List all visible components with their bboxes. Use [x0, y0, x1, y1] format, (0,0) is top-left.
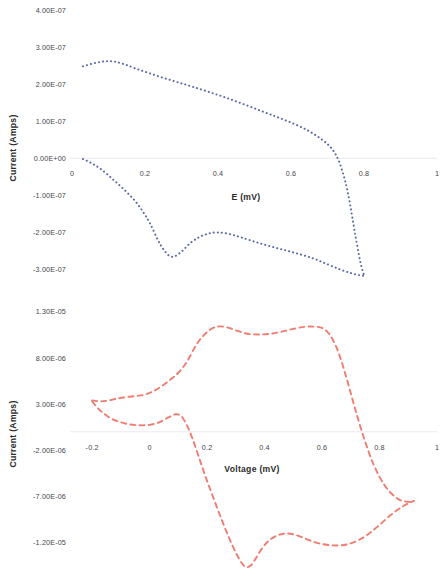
data-series-reverse-sweep: [83, 159, 364, 276]
x-axis-tick-label: 1: [435, 443, 439, 452]
y-axis-tick-label: -3.00E-07: [33, 265, 66, 274]
y-axis-title: Current (Amps): [8, 114, 18, 181]
data-series-forward-sweep: [83, 61, 364, 275]
y-axis-tick-label: -1.20E-05: [33, 538, 66, 547]
y-axis-tick-label: 2.00E-07: [36, 80, 66, 89]
cyclic-voltammogram-red: 1.30E-058.00E-063.00E-06-2.00E-06-7.00E-…: [0, 292, 443, 584]
y-axis-tick-label: 3.00E-07: [36, 43, 66, 52]
y-axis-tick-label: -2.00E-07: [33, 228, 66, 237]
x-axis-tick-label: 0: [148, 443, 152, 452]
x-axis-tick-label: 0.4: [213, 169, 223, 178]
x-axis-tick-label: 1: [435, 169, 439, 178]
y-axis-title: Current (Amps): [8, 400, 18, 467]
x-axis-tick-label: 0.6: [286, 169, 296, 178]
x-axis-title: E (mV): [231, 192, 260, 202]
y-axis-tick-label: 3.00E-06: [36, 400, 66, 409]
y-axis-tick-label: -7.00E-06: [33, 492, 66, 501]
y-axis-tick-label: -2.00E-06: [33, 446, 66, 455]
y-axis-tick-label: 4.00E-07: [36, 6, 66, 15]
x-axis-tick-label: 0.2: [202, 443, 212, 452]
y-axis-tick-label: -1.00E-07: [33, 191, 66, 200]
data-series-reverse-sweep: [92, 401, 414, 567]
y-axis-tick-label: 0.00E+00: [34, 154, 66, 163]
y-axis-tick-label: 1.30E-05: [36, 307, 66, 316]
x-axis-tick-label: 0.8: [359, 169, 369, 178]
x-axis-tick-label: 0.4: [259, 443, 269, 452]
x-axis-tick-label: -0.2: [86, 443, 99, 452]
x-axis-tick-label: 0.6: [317, 443, 327, 452]
y-axis-tick-label: 1.00E-07: [36, 117, 66, 126]
cyclic-voltammogram-blue: 4.00E-073.00E-072.00E-071.00E-070.00E+00…: [0, 0, 443, 292]
chart-panel-top: 4.00E-073.00E-072.00E-071.00E-070.00E+00…: [0, 0, 443, 292]
x-axis-tick-label: 0.8: [374, 443, 384, 452]
data-series-forward-sweep: [92, 326, 414, 502]
y-axis-tick-label: 8.00E-06: [36, 354, 66, 363]
x-axis-tick-label: 0: [70, 169, 74, 178]
x-axis-tick-label: 0.2: [140, 169, 150, 178]
chart-panel-bottom: 1.30E-058.00E-063.00E-06-2.00E-06-7.00E-…: [0, 292, 443, 584]
figure-root: 4.00E-073.00E-072.00E-071.00E-070.00E+00…: [0, 0, 443, 584]
x-axis-title: Voltage (mV): [224, 464, 280, 474]
